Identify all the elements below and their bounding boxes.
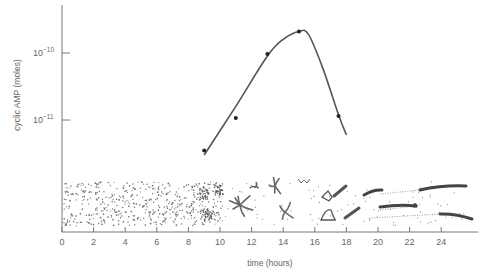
- development-illustration-strip: [63, 178, 472, 227]
- y-axis-title: cyclic AMP (moles): [12, 59, 22, 131]
- x-tick-label: 18: [341, 237, 351, 247]
- x-tick-label: 20: [373, 237, 383, 247]
- x-tick-label: 10: [215, 237, 225, 247]
- x-tick-label: 2: [91, 237, 96, 247]
- data-point: [337, 114, 341, 118]
- x-tick-label: 8: [186, 237, 191, 247]
- x-tick-label: 22: [405, 237, 415, 247]
- data-point: [234, 116, 238, 120]
- data-point: [297, 29, 301, 33]
- chart: 024681012141618202224 10−1010−11 time (h…: [0, 0, 491, 277]
- x-tick-label: 24: [436, 237, 446, 247]
- x-axis-title: time (hours): [247, 258, 293, 268]
- x-ticks: 024681012141618202224: [59, 227, 446, 247]
- x-tick-label: 14: [278, 237, 288, 247]
- x-tick-label: 16: [310, 237, 320, 247]
- fitted-curve: [204, 30, 346, 155]
- x-tick-label: 12: [247, 237, 257, 247]
- data-point: [202, 149, 206, 153]
- x-tick-label: 4: [123, 237, 128, 247]
- data-points: [202, 29, 340, 152]
- x-tick-label: 0: [59, 237, 64, 247]
- y-tick-label: 10−11: [33, 113, 54, 125]
- x-tick-label: 6: [154, 237, 159, 247]
- y-ticks: 10−1010−11: [33, 46, 70, 125]
- data-point: [265, 52, 269, 56]
- y-tick-label: 10−10: [33, 46, 54, 58]
